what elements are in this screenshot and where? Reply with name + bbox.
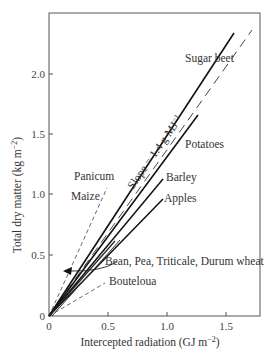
x-axis-title: Intercepted radiation (GJ m−2) [80, 335, 219, 349]
x-tick-label: 1.5 [219, 320, 233, 332]
chart: 0 0.5 1.0 1.5 2.0 0 0.5 1.0 1.5 Intercep… [0, 0, 272, 360]
y-tick-label: 2.0 [31, 68, 45, 80]
y-tick-label: 0.5 [31, 249, 45, 261]
x-tick-label: 0.5 [101, 320, 115, 332]
maize-line [49, 188, 107, 316]
y-tick-label: 0 [40, 310, 46, 322]
x-tick-label: 1.0 [160, 320, 174, 332]
y-tick-label: 1.5 [31, 128, 45, 140]
label-panicum: Panicum [74, 170, 114, 182]
label-bean-pea-triticale-durum: Bean, Pea, Triticale, Durum wheat [105, 255, 265, 268]
label-apples: Apples [164, 192, 197, 205]
y-axis-title: Total dry matter (kg m−2) [10, 137, 24, 253]
label-potatoes: Potatoes [185, 138, 224, 150]
label-sugar-beet: Sugar beet [185, 52, 235, 65]
x-tick-label: 0 [46, 320, 52, 332]
y-tick-label: 1.0 [31, 188, 45, 200]
y-axis [49, 74, 53, 255]
label-barley: Barley [166, 171, 197, 184]
bean-pea-line [49, 241, 115, 316]
label-maize: Maize [71, 190, 100, 202]
barley-line [49, 179, 163, 316]
arrowhead-icon [63, 267, 72, 275]
x-axis [108, 312, 226, 316]
label-bouteloua: Bouteloua [109, 275, 156, 287]
